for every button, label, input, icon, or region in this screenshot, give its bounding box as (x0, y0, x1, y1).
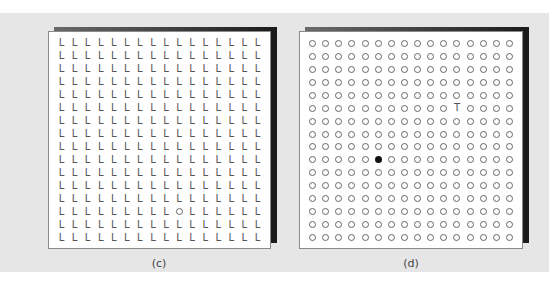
letter-l: L (124, 233, 130, 243)
ring-symbol (440, 66, 447, 73)
letter-l: L (59, 77, 65, 87)
letter-l: L (111, 233, 117, 243)
ring-symbol (335, 118, 342, 125)
letter-l: L (163, 51, 169, 61)
letter-l: L (98, 194, 104, 204)
letter-l: L (242, 168, 248, 178)
letter-l: L (242, 38, 248, 48)
letter-l: L (189, 207, 195, 217)
ring-symbol (322, 182, 329, 189)
ring-symbol (348, 66, 355, 73)
letter-l: L (59, 90, 65, 100)
letter-l: L (59, 129, 65, 139)
letter-l: L (255, 207, 261, 217)
letter-l: L (255, 64, 261, 74)
letter-l: L (163, 103, 169, 113)
letter-l: L (255, 38, 261, 48)
ring-symbol (375, 53, 382, 60)
letter-l: L (163, 90, 169, 100)
ring-symbol (427, 221, 434, 228)
letter-l: L (202, 142, 208, 152)
letter-l: L (111, 220, 117, 230)
ring-symbol (427, 118, 434, 125)
ring-symbol (506, 66, 513, 73)
ring-symbol (388, 182, 395, 189)
letter-l: L (111, 77, 117, 87)
ring-symbol (480, 182, 487, 189)
letter-l: L (215, 142, 221, 152)
ring-symbol (335, 156, 342, 163)
ring-symbol (401, 208, 408, 215)
letter-l: L (85, 77, 91, 87)
ring-symbol (322, 131, 329, 138)
letter-l: L (72, 220, 78, 230)
letter-l: L (98, 90, 104, 100)
ring-symbol (348, 40, 355, 47)
letter-l: L (150, 103, 156, 113)
ring-symbol (375, 169, 382, 176)
letter-l: L (255, 77, 261, 87)
ring-symbol (401, 131, 408, 138)
letter-l: L (176, 103, 182, 113)
ring-symbol (440, 92, 447, 99)
ring-symbol (388, 92, 395, 99)
ring-symbol (348, 182, 355, 189)
letter-l: L (215, 77, 221, 87)
letter-l: L (137, 103, 143, 113)
ring-symbol (414, 105, 421, 112)
letter-l: L (202, 194, 208, 204)
letter-l: L (176, 220, 182, 230)
ring-symbol (309, 169, 316, 176)
ring-symbol (401, 40, 408, 47)
ring-symbol (493, 234, 500, 241)
ring-symbol (506, 53, 513, 60)
letter-l: L (137, 142, 143, 152)
ring-symbol (480, 131, 487, 138)
ring-symbol (467, 208, 474, 215)
ring-symbol (362, 79, 369, 86)
letter-l: L (124, 38, 130, 48)
letter-l: L (229, 220, 235, 230)
letter-l: L (137, 181, 143, 191)
letter-l: L (189, 142, 195, 152)
ring-symbol (335, 221, 342, 228)
ring-symbol (453, 208, 460, 215)
letter-l: L (215, 90, 221, 100)
letter-l: L (137, 64, 143, 74)
ring-symbol (309, 234, 316, 241)
ring-symbol (348, 156, 355, 163)
letter-l: L (202, 77, 208, 87)
ring-symbol (427, 40, 434, 47)
ring-symbol (322, 169, 329, 176)
letter-l: L (150, 168, 156, 178)
ring-symbol (375, 195, 382, 202)
letter-l: L (72, 103, 78, 113)
ring-symbol (427, 169, 434, 176)
letter-t-target: T (454, 103, 460, 113)
letter-l: L (98, 103, 104, 113)
letter-l: L (59, 207, 65, 217)
letter-l: L (124, 90, 130, 100)
ring-symbol (480, 105, 487, 112)
ring-symbol (440, 182, 447, 189)
letter-l: L (163, 168, 169, 178)
letter-l: L (85, 38, 91, 48)
letter-l: L (59, 181, 65, 191)
letter-l: L (255, 129, 261, 139)
ring-symbol (309, 40, 316, 47)
letter-l: L (215, 103, 221, 113)
letter-l: L (150, 51, 156, 61)
ring-symbol (467, 66, 474, 73)
letter-l: L (98, 64, 104, 74)
letter-l: L (72, 64, 78, 74)
letter-l: L (59, 233, 65, 243)
ring-symbol (362, 92, 369, 99)
ring-symbol (453, 40, 460, 47)
letter-l: L (111, 90, 117, 100)
letter-l: L (98, 181, 104, 191)
ring-symbol (348, 79, 355, 86)
ring-symbol (309, 208, 316, 215)
ring-symbol (480, 118, 487, 125)
letter-l: L (215, 51, 221, 61)
letter-l: L (202, 38, 208, 48)
